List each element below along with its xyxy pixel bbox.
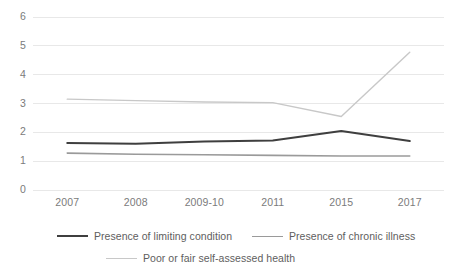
chart-legend: Presence of limiting condition Presence … bbox=[0, 222, 452, 276]
x-tick-label: 2009-10 bbox=[185, 196, 224, 208]
legend-swatch-limiting-condition bbox=[57, 235, 88, 237]
legend-item-limiting-condition[interactable]: Presence of limiting condition bbox=[57, 230, 232, 242]
series-line-0 bbox=[67, 131, 410, 144]
x-tick-label: 2017 bbox=[398, 196, 422, 208]
series-line-1 bbox=[67, 153, 410, 156]
legend-label-limiting-condition: Presence of limiting condition bbox=[94, 230, 232, 242]
x-tick-label: 2007 bbox=[55, 196, 79, 208]
y-tick-label: 0 bbox=[8, 183, 26, 195]
series-line-2 bbox=[67, 52, 410, 116]
y-tick-label: 2 bbox=[8, 125, 26, 137]
legend-label-chronic-illness: Presence of chronic illness bbox=[289, 230, 415, 242]
y-tick-label: 1 bbox=[8, 154, 26, 166]
y-tick-label: 3 bbox=[8, 97, 26, 109]
x-tick-label: 2015 bbox=[329, 196, 353, 208]
gridlines bbox=[33, 17, 444, 190]
legend-swatch-self-assessed-health bbox=[106, 258, 137, 259]
x-tick-label: 2008 bbox=[124, 196, 148, 208]
legend-item-chronic-illness[interactable]: Presence of chronic illness bbox=[252, 230, 415, 242]
legend-swatch-chronic-illness bbox=[252, 236, 283, 237]
legend-label-self-assessed-health: Poor or fair self-assessed health bbox=[143, 252, 295, 264]
series-lines bbox=[67, 52, 410, 156]
legend-item-self-assessed-health[interactable]: Poor or fair self-assessed health bbox=[106, 252, 295, 264]
x-tick-label: 2011 bbox=[261, 196, 284, 208]
y-tick-label: 4 bbox=[8, 68, 26, 80]
y-tick-label: 6 bbox=[8, 10, 26, 22]
plot-area: 0123456 200720082009-10201120152017 bbox=[0, 0, 452, 220]
y-tick-label: 5 bbox=[8, 39, 26, 51]
line-chart: 0123456 200720082009-10201120152017 Pres… bbox=[0, 0, 452, 276]
plot-svg bbox=[0, 0, 452, 220]
